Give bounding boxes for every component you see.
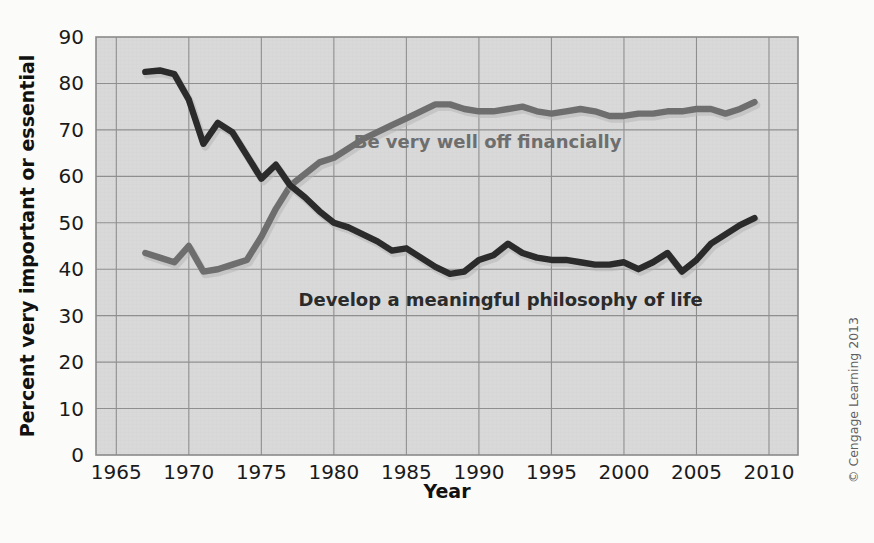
plot-background <box>96 37 798 455</box>
figure-container: 1965197019751980198519901995200020052010… <box>0 0 874 543</box>
series-label-0: Be very well off financially <box>354 131 622 152</box>
y-tick-label: 70 <box>59 118 84 142</box>
x-tick-label: 1980 <box>308 460 359 484</box>
y-tick-label: 20 <box>59 350 84 374</box>
y-tick-label: 40 <box>59 257 84 281</box>
x-tick-label: 2000 <box>598 460 649 484</box>
x-tick-label: 1970 <box>163 460 214 484</box>
y-tick-label: 0 <box>71 443 84 467</box>
y-axis-tick-labels: 0102030405060708090 <box>59 25 84 467</box>
x-tick-label: 1975 <box>236 460 287 484</box>
chart-svg: 1965197019751980198519901995200020052010… <box>0 0 874 543</box>
series-label-1: Develop a meaningful philosophy of life <box>299 289 703 310</box>
y-tick-label: 10 <box>59 397 84 421</box>
x-tick-label: 2010 <box>744 460 795 484</box>
y-tick-label: 30 <box>59 304 84 328</box>
copyright-credit: © Cengage Learning 2013 <box>846 317 861 483</box>
x-tick-label: 1965 <box>91 460 142 484</box>
y-tick-label: 50 <box>59 211 84 235</box>
y-tick-label: 60 <box>59 164 84 188</box>
x-axis-title: Year <box>422 480 471 502</box>
y-axis-title: Percent very important or essential <box>16 55 38 438</box>
x-tick-label: 1995 <box>526 460 577 484</box>
y-tick-label: 80 <box>59 71 84 95</box>
y-tick-label: 90 <box>59 25 84 49</box>
x-tick-label: 2005 <box>671 460 722 484</box>
